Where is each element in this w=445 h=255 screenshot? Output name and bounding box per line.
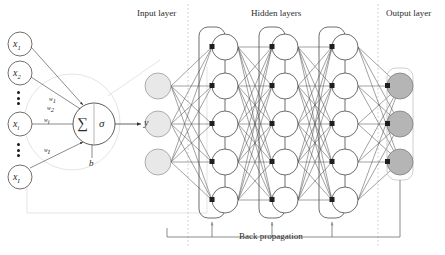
neuron-edge-xI [30, 142, 83, 168]
back-propagation-label: Back propagation [239, 232, 303, 241]
hidden-layers-title: Hidden layers [251, 9, 301, 18]
hidden2-node-3 [272, 111, 298, 137]
summation-symbol: ∑ [77, 116, 88, 131]
input-node-1 [145, 73, 171, 99]
neuron-edge-x2 [31, 77, 82, 110]
neuron-input-sub-x2: 2 [17, 73, 20, 80]
hidden3-node-5 [332, 187, 358, 213]
input-node-3 [145, 149, 171, 175]
input-node-2 [145, 111, 171, 137]
hidden3-node-4 [332, 149, 358, 175]
input-layer-title: Input layer [137, 9, 176, 18]
weight-sub-w2: 2 [51, 106, 54, 113]
hidden2-node-5 [272, 187, 298, 213]
neuron-input-node-xi [8, 112, 32, 136]
input-ellipsis-lower [17, 143, 20, 157]
neuron-output-label: y [144, 118, 148, 128]
hidden1-node-2 [212, 73, 238, 99]
hidden1-node-3 [212, 111, 238, 137]
neuron-input-sub-xi: i [17, 124, 19, 131]
hidden1-node-4 [212, 149, 238, 175]
neuron-input-label-x1: x1 [13, 39, 21, 52]
neuron-edge-x1 [31, 47, 83, 105]
neuron-input-sub-xI: I [17, 177, 19, 184]
weight-sub-w1: 1 [53, 97, 56, 104]
input-ellipsis-upper [17, 91, 20, 105]
figure-canvas [0, 0, 445, 255]
neuron-input-label-xi: xi [13, 119, 19, 132]
hidden2-node-2 [272, 73, 298, 99]
callout-leader-group [24, 60, 207, 213]
weight-label-wI: wI [44, 148, 50, 156]
weight-label-w1: w1 [49, 97, 56, 105]
weight-label-w2: w2 [47, 106, 54, 114]
neuron-input-label-xI: xI [13, 172, 20, 185]
hidden2-node-4 [272, 149, 298, 175]
weight-sub-wi: i [48, 118, 50, 125]
neuron-input-node-xI [8, 165, 32, 189]
output-layer-title: Output layer [386, 9, 431, 18]
hidden3-node-1 [332, 34, 358, 60]
artificial-neuron-diagram [8, 32, 141, 189]
hidden3-node-3 [332, 111, 358, 137]
bias-label: b [89, 159, 94, 168]
hidden2-node-1 [272, 34, 298, 60]
neuron-input-label-x2: x2 [13, 68, 21, 81]
activation-symbol: σ [99, 118, 104, 129]
hidden3-node-2 [332, 73, 358, 99]
callout-leader-lower [27, 67, 207, 213]
output-node-2 [387, 111, 413, 137]
output-node-1 [387, 73, 413, 99]
weight-label-wi: wi [44, 118, 49, 126]
neuron-input-sub-x1: 1 [17, 44, 20, 51]
weight-sub-wI: I [48, 148, 50, 155]
neural-network-figure: x1 x2 xi xI w1 w2 wi wI ∑ σ b y Input la… [0, 0, 445, 255]
output-node-3 [387, 149, 413, 175]
hidden1-node-5 [212, 187, 238, 213]
hidden1-node-1 [212, 34, 238, 60]
